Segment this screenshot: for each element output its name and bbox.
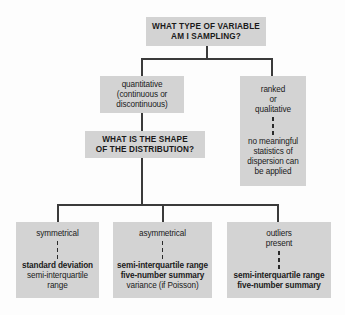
node-ranked-qualitative[interactable]: ranked or qualitative no meaningful stat… — [240, 76, 306, 186]
node-outliers-line1: semi-interquartile range — [234, 271, 325, 281]
node-ranked-line5: statistics of — [253, 147, 292, 157]
node-symmetrical[interactable]: symmetrical standard deviation semi-inte… — [16, 222, 99, 298]
node-symmetrical-heading: symmetrical — [36, 229, 79, 239]
node-ranked-line4: no meaningful — [248, 137, 298, 147]
node-ranked-line6: dispersion can — [247, 157, 298, 167]
connector-title-stem — [206, 45, 208, 59]
node-outliers-line2: five-number summary — [237, 281, 321, 291]
node-asymmetrical-line1: semi-interquartile range — [117, 261, 208, 271]
node-outliers-heading1: outliers — [266, 229, 292, 239]
node-ranked-line7: be applied — [255, 167, 292, 177]
node-shape-line1: WHAT IS THE SHAPE — [102, 135, 188, 145]
node-variable-type-question-line1: WHAT TYPE OF VARIABLE — [152, 22, 260, 32]
dashed-separator-icon — [162, 239, 164, 261]
node-symmetrical-line1: standard deviation — [22, 261, 93, 271]
node-quantitative-line3: discontinuous) — [116, 100, 167, 110]
node-asymmetrical-line2: five-number summary — [121, 271, 205, 281]
node-distribution-shape-question[interactable]: WHAT IS THE SHAPE OF THE DISTRIBUTION? — [85, 131, 205, 158]
dashed-separator-icon — [57, 239, 59, 261]
node-quantitative-line1: quantitative — [122, 80, 163, 90]
connector-shape-stem — [141, 157, 143, 206]
connector-to-asymmetrical — [162, 204, 164, 223]
node-symmetrical-line3: range — [47, 281, 67, 291]
connector-to-quantitative — [141, 58, 143, 77]
connector-quantitative-to-shape — [141, 112, 143, 132]
node-asymmetrical[interactable]: asymmetrical semi-interquartile range fi… — [113, 222, 212, 298]
flowchart-canvas: WHAT TYPE OF VARIABLE AM I SAMPLING? qua… — [0, 0, 345, 315]
node-outliers-heading2: present — [266, 239, 293, 249]
node-asymmetrical-line3: variance (if Poisson) — [126, 281, 198, 291]
node-ranked-line3: qualitative — [255, 105, 291, 115]
node-asymmetrical-heading: asymmetrical — [139, 229, 186, 239]
node-quantitative-line2: (continuous or — [117, 90, 167, 100]
node-outliers-present[interactable]: outliers present semi-interquartile rang… — [227, 222, 331, 298]
connector-to-outliers — [277, 204, 279, 223]
connector-to-ranked — [271, 58, 273, 77]
node-ranked-line1: ranked — [261, 85, 285, 95]
connector-to-symmetrical — [57, 204, 59, 223]
node-shape-line2: OF THE DISTRIBUTION? — [96, 145, 195, 155]
connector-level1-bar — [141, 58, 273, 60]
node-ranked-line2: or — [269, 95, 276, 105]
dashed-separator-icon — [272, 115, 274, 137]
node-quantitative[interactable]: quantitative (continuous or discontinuou… — [100, 76, 184, 113]
node-variable-type-question[interactable]: WHAT TYPE OF VARIABLE AM I SAMPLING? — [146, 17, 266, 46]
node-variable-type-question-line2: AM I SAMPLING? — [171, 32, 241, 42]
connector-level2-bar — [57, 204, 279, 206]
dashed-separator-icon — [278, 249, 280, 271]
node-symmetrical-line2: semi-interquartile — [27, 271, 88, 281]
